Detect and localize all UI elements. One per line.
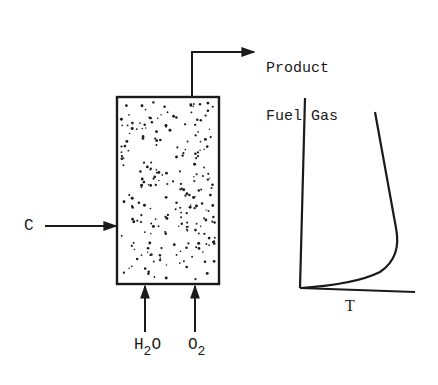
product-label-line2: Fuel Gas	[266, 109, 338, 125]
diagram-svg	[0, 0, 438, 385]
reactor-vessel	[117, 97, 219, 284]
water-label-h: H	[134, 336, 144, 354]
oxygen-label-subscript: 2	[198, 344, 206, 359]
oxygen-label-o: O	[188, 336, 198, 354]
product-outlet-arrow	[192, 52, 254, 97]
product-label-line1: Product	[266, 61, 338, 77]
water-label-subscript: 2	[144, 344, 152, 359]
water-label-o: O	[151, 336, 161, 354]
carbon-label: C	[24, 218, 34, 234]
temperature-axis-label: T	[345, 298, 355, 314]
temperature-axis	[300, 288, 415, 292]
water-label: H2O	[134, 337, 161, 354]
diagram-canvas: Product Fuel Gas C H2O O2 T	[0, 0, 438, 385]
product-label: Product Fuel Gas	[266, 29, 338, 157]
oxygen-label: O2	[188, 337, 205, 354]
